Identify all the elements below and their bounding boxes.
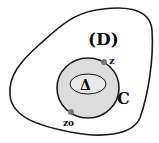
label-domain: (D): [88, 29, 119, 49]
diagram: (D) Δ C z zo: [0, 0, 159, 143]
point-z: [101, 59, 107, 65]
label-z0: zo: [63, 118, 74, 128]
label-z: z: [109, 55, 115, 66]
point-z0: [68, 109, 74, 115]
label-delta: Δ: [80, 77, 91, 93]
label-curve: C: [117, 89, 130, 108]
